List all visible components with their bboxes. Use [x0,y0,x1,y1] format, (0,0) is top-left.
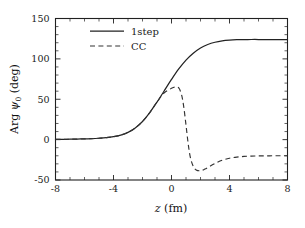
legend-label-cc: CC [131,41,147,52]
figure-container: -50050100150 -8-4048 1step CC z (fm) Arg… [0,0,305,228]
y-tick-label: 100 [31,53,49,64]
x-axis-unit: (fm) [164,202,187,215]
x-tick-label: 8 [284,183,290,194]
y-axis-prefix: Arg [8,114,21,135]
x-tick-label: 4 [226,183,232,194]
x-axis-title: z (fm) [154,202,187,215]
x-tick-label: -8 [51,183,60,194]
x-tick-label: 0 [168,183,174,194]
legend-label-1step: 1step [131,26,159,37]
y-tick-label: 150 [31,13,49,24]
arg-psi-vs-z-chart: -50050100150 -8-4048 1step CC z (fm) Arg… [0,0,305,228]
y-tick-label: -50 [34,174,49,185]
y-tick-label: 50 [37,94,49,105]
y-tick-label: 0 [43,134,49,145]
x-tick-label: -4 [109,183,118,194]
svg-text:z (fm): z (fm) [154,202,187,215]
y-axis-unit: (deg) [8,64,21,93]
